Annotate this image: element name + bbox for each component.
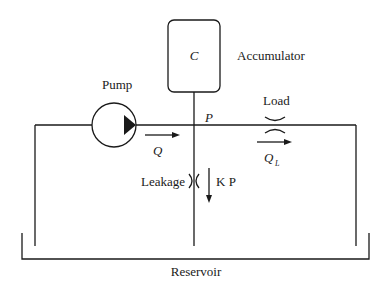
load-orifice-top xyxy=(265,117,285,121)
pressure-label: P xyxy=(204,110,213,125)
reservoir-label: Reservoir xyxy=(171,264,222,279)
load-flow-subscript: L xyxy=(274,159,280,168)
ql-arrow-icon xyxy=(284,139,292,145)
leakage-label: Leakage xyxy=(141,174,185,189)
reservoir-tank xyxy=(22,233,369,259)
load-orifice-bottom xyxy=(265,130,285,134)
leakage-orifice-right xyxy=(196,174,199,188)
accumulator-symbol: C xyxy=(190,48,199,63)
load-flow-label: Q xyxy=(264,150,274,165)
q-arrow-icon xyxy=(172,132,180,138)
pump-flow-label: Q xyxy=(153,143,163,158)
load-label: Load xyxy=(263,93,290,108)
hydraulic-circuit-diagram: C Accumulator Pump P Load Q Q L Leakage … xyxy=(0,0,387,287)
kp-arrow-icon xyxy=(206,195,212,203)
pump-label: Pump xyxy=(102,77,132,92)
accumulator-label: Accumulator xyxy=(237,48,306,63)
leakage-flow-label: K P xyxy=(216,174,236,189)
leakage-orifice-left xyxy=(189,174,192,188)
